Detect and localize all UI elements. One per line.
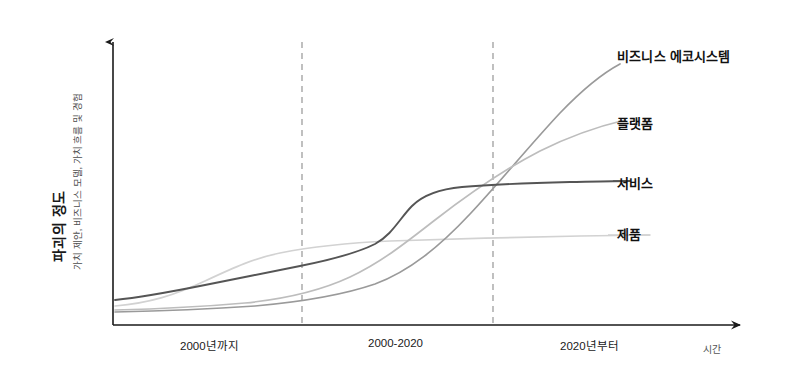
x-tick-label-until-2000: 2000년까지 <box>180 337 239 353</box>
series-line-product <box>115 235 650 306</box>
series-label-ecosystem: 비즈니스 에코시스템 <box>617 46 731 65</box>
chart-container: 파괴의 정도 가치 제안, 비즈니스 모델, 가치 흐름 및 경험 2000년까… <box>0 0 792 380</box>
series-line-service <box>115 181 630 300</box>
series-line-platform <box>115 120 625 310</box>
series-label-product: 제품 <box>617 224 641 243</box>
x-tick-label-from-2020: 2020년부터 <box>560 337 619 353</box>
y-axis-subtitle: 가치 제안, 비즈니스 모델, 가치 흐름 및 경험 <box>70 93 84 270</box>
series-line-ecosystem <box>115 64 620 312</box>
series-label-service: 서비스 <box>617 173 654 192</box>
series-label-platform: 플랫폼 <box>617 113 654 132</box>
x-tick-label-2000-2020: 2000-2020 <box>368 337 423 349</box>
y-axis-title: 파괴의 정도 <box>48 190 68 262</box>
x-axis-title: 시간 <box>703 341 721 356</box>
